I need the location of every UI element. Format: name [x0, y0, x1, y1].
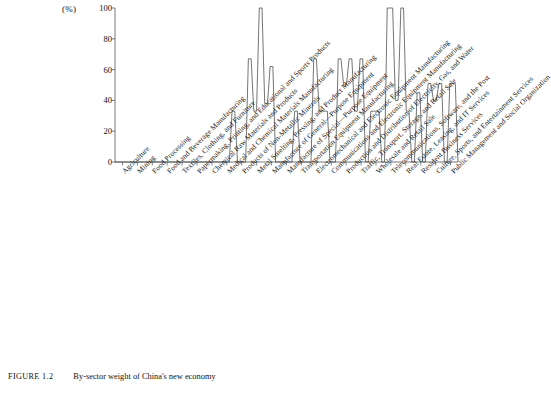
figure-number: FIGURE 1.2	[8, 372, 53, 381]
y-axis-ticks	[112, 8, 116, 162]
figure-caption: FIGURE 1.2By-sector weight of China's ne…	[8, 372, 458, 381]
x-axis-category-labels: AgricultureMiningFood ProcessingFood and…	[0, 163, 466, 353]
figure-caption-text: By-sector weight of China's new economy	[73, 372, 215, 381]
